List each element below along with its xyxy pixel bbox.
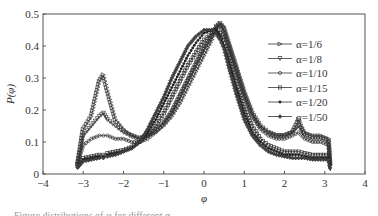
x-tick-label: 0 bbox=[201, 177, 207, 189]
legend-label: α=1/15 bbox=[296, 82, 328, 94]
chart: −4−3−2−10123400.10.20.30.40.5φP(φ)α=1/6α… bbox=[0, 0, 378, 216]
legend-label: α=1/8 bbox=[296, 53, 323, 65]
y-tick-label: 0 bbox=[34, 168, 40, 180]
legend-marker bbox=[278, 115, 282, 119]
data-point bbox=[188, 52, 191, 55]
figure-caption: Figure distributions of φ for different … bbox=[14, 210, 170, 216]
data-point bbox=[178, 70, 181, 73]
data-point bbox=[201, 34, 204, 37]
data-point bbox=[191, 47, 194, 50]
data-point bbox=[197, 39, 200, 42]
y-tick-label: 0.2 bbox=[25, 104, 39, 116]
data-point bbox=[180, 68, 183, 71]
y-tick-label: 0.5 bbox=[25, 8, 39, 20]
data-point bbox=[181, 65, 184, 68]
x-tick-label: 4 bbox=[362, 177, 368, 189]
legend-label: α=1/10 bbox=[296, 67, 328, 79]
data-point bbox=[187, 54, 190, 57]
data-point bbox=[185, 57, 188, 60]
data-point bbox=[177, 73, 180, 76]
data-point bbox=[170, 86, 173, 89]
x-tick-label: 1 bbox=[242, 177, 248, 189]
y-tick-label: 0.1 bbox=[25, 136, 39, 148]
data-point bbox=[176, 76, 179, 79]
data-point bbox=[184, 60, 187, 63]
legend-marker bbox=[279, 101, 282, 104]
data-point bbox=[199, 37, 202, 40]
data-point bbox=[190, 49, 193, 52]
data-point bbox=[195, 41, 198, 44]
x-axis-label: φ bbox=[201, 192, 207, 204]
x-tick-label: −3 bbox=[77, 177, 89, 189]
data-point bbox=[172, 84, 175, 87]
data-point bbox=[169, 89, 172, 92]
data-point bbox=[193, 44, 196, 47]
x-tick-label: −1 bbox=[158, 177, 170, 189]
y-tick-label: 0.3 bbox=[25, 72, 39, 84]
legend-label: α=1/6 bbox=[296, 38, 323, 50]
legend-label: α=1/50 bbox=[296, 111, 328, 123]
x-tick-label: 3 bbox=[322, 177, 328, 189]
data-point bbox=[182, 62, 185, 65]
legend-label: α=1/20 bbox=[296, 96, 328, 108]
x-tick-label: −2 bbox=[118, 177, 130, 189]
x-tick-label: 2 bbox=[282, 177, 288, 189]
data-point bbox=[173, 81, 176, 84]
y-axis-label: P(φ) bbox=[4, 84, 17, 105]
data-point bbox=[174, 78, 177, 81]
y-tick-label: 0.4 bbox=[25, 40, 39, 52]
